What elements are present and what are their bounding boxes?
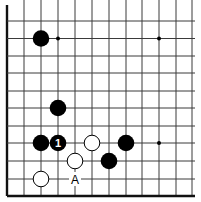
white-stone-icon (67, 153, 83, 169)
black-stone-icon (33, 135, 50, 152)
white-stone-icon (84, 135, 100, 151)
black-stone-icon (33, 30, 50, 47)
black-stone (118, 135, 135, 152)
point-labels: A (69, 172, 81, 187)
white-stone (33, 171, 49, 187)
black-stone (33, 135, 50, 152)
black-stone (33, 30, 50, 47)
board-grid (7, 0, 195, 196)
white-stone (67, 153, 83, 169)
star-point-icon (157, 37, 161, 41)
move-number-label: 1 (55, 137, 61, 149)
star-point-icon (56, 37, 60, 41)
black-stone-icon (118, 135, 135, 152)
white-stone (84, 135, 100, 151)
go-board-diagram: A 1 (0, 0, 201, 202)
white-stone-icon (33, 171, 49, 187)
black-stone: 1 (50, 135, 67, 152)
black-stone-icon (101, 153, 118, 170)
black-stone (50, 100, 67, 117)
black-stone-icon (50, 100, 67, 117)
black-stone (101, 153, 118, 170)
star-point-icon (157, 141, 161, 145)
point-label-a: A (71, 173, 79, 187)
